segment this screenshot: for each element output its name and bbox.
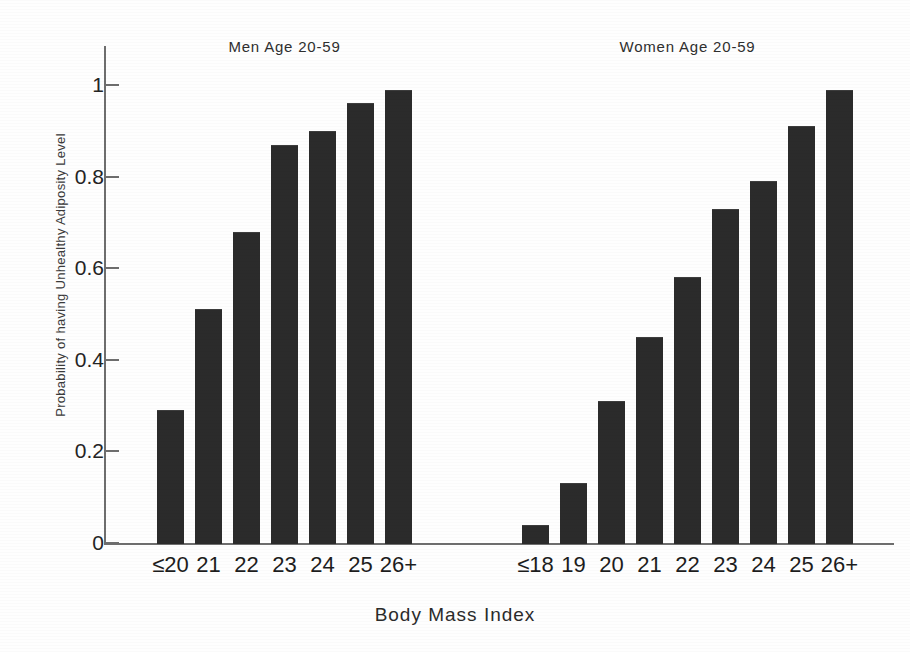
y-tick-label: 0.6 [58,257,104,278]
bar-women-24 [750,181,777,544]
bar-men-23 [271,145,298,544]
y-tick-mark [106,359,119,361]
group-title-women: Women Age 20-59 [538,38,838,55]
y-tick-label: 0.2 [58,440,104,461]
bar-women-21 [636,337,663,544]
y-tick-label: 1 [58,74,104,95]
bar-women-23 [712,209,739,544]
bar-men-26+ [385,90,412,544]
chart-page: Probability of having Unhealthy Adiposit… [0,0,910,652]
y-tick-label: 0 [58,532,104,553]
y-tick-mark [106,84,119,86]
y-tick-mark [106,267,119,269]
y-tick-label: 0.8 [58,166,104,187]
bar-women-22 [674,277,701,544]
y-axis-line [104,46,106,545]
bar-men-20 [157,410,184,544]
bar-women-26+ [826,90,853,544]
x-tick-label: 26+ [810,552,870,577]
x-tick-label: 26+ [369,552,429,577]
y-tick-mark [106,450,119,452]
bar-women-19 [560,483,587,544]
y-tick-mark [106,176,119,178]
bar-women-25 [788,126,815,544]
bar-men-22 [233,232,260,544]
bar-men-25 [347,103,374,544]
y-tick-label: 0.4 [58,349,104,370]
bar-men-24 [309,131,336,544]
group-title-men: Men Age 20-59 [135,38,435,55]
bar-men-21 [195,309,222,544]
x-axis-title: Body Mass Index [0,604,910,626]
bar-women-18 [522,525,549,544]
bar-women-20 [598,401,625,544]
y-tick-mark [106,542,119,544]
